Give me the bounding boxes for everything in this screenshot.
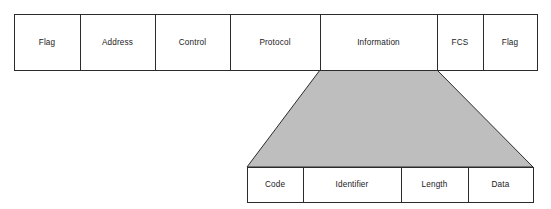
frame-field-label: Protocol [230, 14, 320, 70]
ppp-frame-diagram: FlagAddressControlProtocolInformationFCS… [0, 0, 551, 209]
expansion-trapezoid-group [247, 70, 533, 167]
frame-field-label: Control [155, 14, 230, 70]
frame-field-label: FCS [437, 14, 483, 70]
frame-field-label: Address [80, 14, 155, 70]
packet-field-label: Code [247, 167, 303, 202]
frame-field-label: Flag [483, 14, 537, 70]
packet-field-label: Length [401, 167, 468, 202]
packet-field-label: Identifier [303, 167, 401, 202]
frame-field-label: Information [320, 14, 437, 70]
frame-field-label: Flag [14, 14, 80, 70]
expansion-trapezoid [247, 70, 533, 167]
packet-field-label: Data [468, 167, 533, 202]
